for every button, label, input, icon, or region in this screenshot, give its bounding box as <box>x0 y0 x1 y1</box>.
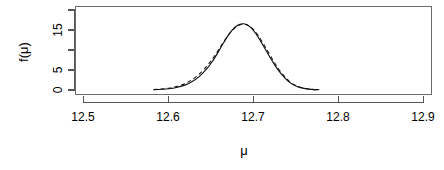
x-tick-label-12-8: 12.8 <box>326 110 350 124</box>
density-plot-figure: 15 5 0 f(μ) 12.5 12.6 12.7 12.8 12.9 μ <box>0 0 444 170</box>
y-tick-label-15: 15 <box>51 23 65 37</box>
plot-area-background <box>75 6 432 95</box>
x-axis-title: μ <box>240 143 248 158</box>
x-tick-label-12-9: 12.9 <box>411 110 435 124</box>
y-tick-label-5: 5 <box>51 66 65 73</box>
y-axis-title: f(μ) <box>16 42 31 62</box>
x-axis: 12.5 12.6 12.7 12.8 12.9 μ <box>71 96 435 158</box>
x-tick-label-12-7: 12.7 <box>241 110 265 124</box>
y-axis: 15 5 0 f(μ) <box>16 10 75 93</box>
plot-canvas: 15 5 0 f(μ) 12.5 12.6 12.7 12.8 12.9 μ <box>0 0 444 170</box>
y-tick-label-0: 0 <box>51 86 65 93</box>
x-tick-label-12-5: 12.5 <box>71 110 95 124</box>
x-tick-label-12-6: 12.6 <box>156 110 180 124</box>
